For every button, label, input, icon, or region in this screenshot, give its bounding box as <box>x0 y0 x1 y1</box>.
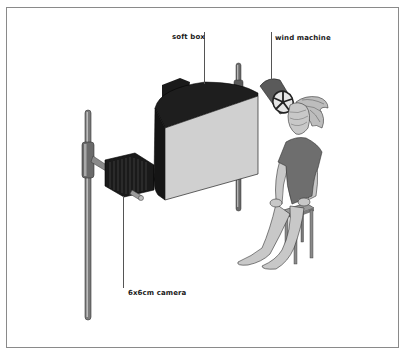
wind-machine-leader-line <box>271 32 272 80</box>
camera-label: 6x6cm camera <box>128 289 186 297</box>
softbox-icon <box>154 78 258 200</box>
wind-machine-label: wind machine <box>275 34 331 42</box>
camera-icon <box>105 153 154 201</box>
softbox-label: soft box <box>172 33 205 41</box>
camera-stand <box>82 110 108 320</box>
studio-setup-illustration <box>0 0 406 355</box>
camera-leader-line <box>123 196 124 288</box>
